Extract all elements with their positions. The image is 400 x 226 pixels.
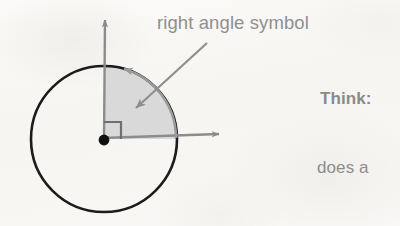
callout-pointer-arrow	[136, 43, 207, 108]
question-fragment-label: does a	[317, 158, 369, 178]
center-point-dot	[99, 135, 110, 146]
callout-label-right-angle-symbol: right angle symbol	[157, 12, 309, 34]
diagram-page: right angle symbol Think: does a	[0, 0, 400, 226]
think-label: Think:	[320, 89, 372, 109]
